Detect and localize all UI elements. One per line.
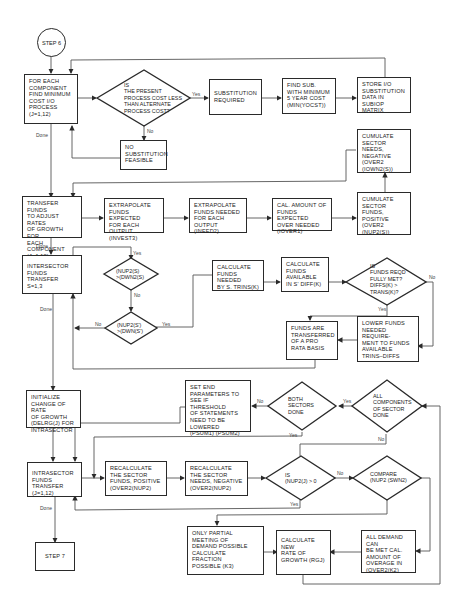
box-extrapolate-needed: EXTRAPOLATE FUNDS NEEDED FOR EACH OUTPUT… xyxy=(189,198,247,233)
decision-present-cost-text: IS THE PRESENT PROCESS COST LESS THAN AL… xyxy=(124,82,186,114)
box-only-partial: ONLY PARTIAL MEETING OF DEMAND POSSIBLE … xyxy=(187,526,264,575)
decision-both-sectors-text: BOTH SECTORS DONE xyxy=(288,396,322,415)
box-cumulate-funds-positive: CUMULATE SECTOR FUNDS, POSITIVE (OVER2 (… xyxy=(357,192,411,235)
box-find-sub-min: FIND SUB. WITH MINIMUM 5 YEAR COST (MIN(… xyxy=(282,78,336,114)
decision-nup2-text: (NUP2(S) >(DWN2(S) xyxy=(116,268,156,281)
edge-label-no: No xyxy=(257,398,263,404)
edge-label-no: No xyxy=(378,436,384,442)
box-initialize: INITIALIZE CHANGE OF RATE OF GROWTH (DEL… xyxy=(26,390,81,428)
start-label: STEP 6 xyxy=(42,40,61,46)
box-transfer-funds: TRANSFER FUNDS TO ADJUST RATES OF GROWTH… xyxy=(22,196,82,238)
edge-label-no: No xyxy=(134,292,140,298)
box-lower-funds: LOWER FUNDS NEEDED REQUIRE- MENT TO FUND… xyxy=(357,316,419,362)
edge-label-done: Done xyxy=(40,306,52,312)
edge-label-no: No xyxy=(429,274,435,280)
edge-label-done: Done xyxy=(40,505,52,511)
box-intrasector: INTRASECTOR FUNDS TRANSFER (J=1,12) xyxy=(27,462,82,497)
decision-all-components-text: ALL COMPONENTS OF SECTOR DONE xyxy=(373,393,415,419)
box-pro-rata: FUNDS ARE TRANSFERRED OF A PRO RATA BASI… xyxy=(286,321,338,360)
box-cumulate-needs-negative: CUMULATE SECTOR NEEDS, NEGATIVE (OVER2 (… xyxy=(357,129,411,173)
box-calc-needed: CALCULATE FUNDS NEEDED BY S. TRINS(K) xyxy=(212,260,264,291)
edge-label-yes: Yes xyxy=(162,321,170,327)
box-calc-available: CALCULATE FUNDS AVAILABLE IN S' DIFF(K) xyxy=(281,257,329,292)
edge-label-done: Done xyxy=(36,243,48,249)
box-calc-new-rate: CALCULATE NEW RATE OF GROWTH (RGJ) xyxy=(276,530,331,575)
box-recalc-positive: RECALCULATE THE SECTOR FUNDS, POSITIVE (… xyxy=(105,461,167,496)
edge-label-yes: Yes xyxy=(290,501,298,507)
edge-label-no: No xyxy=(95,321,101,327)
box-recalc-negative: RECALCULATE THE SECTOR NEEDS, NEGATIVE (… xyxy=(185,461,248,496)
start-step-6: STEP 6 xyxy=(37,28,66,57)
edge-label-done: Done xyxy=(36,132,48,138)
edge-label-no: No xyxy=(337,470,343,476)
decision-funds-met-text: IS FUNDS REQD FULLY MET? DIFFS(K) > TRAN… xyxy=(370,263,414,295)
edge-label-yes: Yes xyxy=(378,306,386,312)
decision-compare-text: COMPARE (NUP2 (SWN2) xyxy=(370,471,414,484)
edge-label-no: No xyxy=(147,128,153,134)
decision-is-nup2-text: IS (NUP2(J) > 0 xyxy=(285,472,329,485)
box-no-substitution: NO SUBSTITUTION FEASIBLE xyxy=(120,140,167,170)
decision-nup2s-text: (NUP2(S') >(DWN(S') xyxy=(117,322,157,335)
edge-label-yes: Yes xyxy=(289,432,297,438)
edge-label-yes: Yes xyxy=(343,398,351,404)
box-store-io: STORE I/O SUBSTITUTION DATA IN SUBIOP MA… xyxy=(357,77,411,113)
edge-label-yes: Yes xyxy=(133,250,141,256)
box-all-demand: ALL DEMAND CAN BE MET CAL. AMOUNT OF OVE… xyxy=(361,530,416,573)
box-set-end-parameters: SET END PARAMETERS TO SEE IF THRESHOLD O… xyxy=(185,380,251,432)
box-cal-amount: CAL. AMOUNT OF FUNDS EXPECTED OVER NEEDE… xyxy=(272,198,332,231)
box-substitution-required: SUBSTITUTION REQUIRED xyxy=(209,79,262,115)
box-find-min-cost: FOR EACH COMPONENT FIND MINIMUM COST I/O… xyxy=(24,74,78,124)
box-intersector: INTERSECTOR FUNDS TRANSFER S=1,3 xyxy=(22,255,82,294)
end-step-7: STEP 7 xyxy=(35,542,75,571)
edge-label-yes: Yes xyxy=(192,91,200,97)
box-extrapolate-expected: EXTRAPOLATE FUNDS EXPECTED FOR EACH OUTP… xyxy=(104,198,164,233)
